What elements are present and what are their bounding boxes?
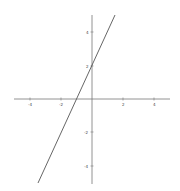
y-tick-label: 4 xyxy=(86,30,89,35)
y-tick-label: -2 xyxy=(84,130,88,135)
x-tick-label: -2 xyxy=(59,102,63,107)
y-tick-label: 2 xyxy=(86,64,89,69)
x-tick-label: -4 xyxy=(28,102,32,107)
line-chart: -4 -2 2 4 4 2 -2 -4 xyxy=(0,0,180,191)
y-tick-label: -4 xyxy=(84,164,88,169)
x-tick-label: 4 xyxy=(153,102,156,107)
x-tick-label: 2 xyxy=(122,102,125,107)
